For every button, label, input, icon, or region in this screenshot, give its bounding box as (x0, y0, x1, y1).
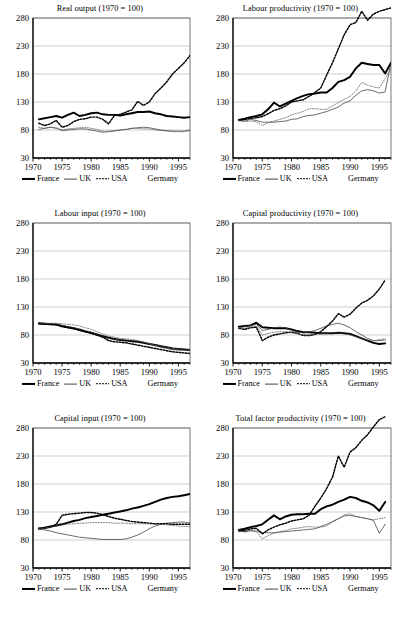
svg-text:180: 180 (216, 274, 229, 284)
legend: France UK USA Germany (0, 379, 200, 388)
line-swatch-usa-icon (297, 177, 310, 181)
svg-text:1985: 1985 (312, 162, 329, 172)
svg-text:130: 130 (216, 97, 229, 107)
legend-label-germany: Germany (348, 174, 378, 183)
svg-text:130: 130 (16, 97, 29, 107)
svg-text:1990: 1990 (341, 367, 358, 377)
svg-text:230: 230 (216, 41, 229, 51)
line-swatch-uk-icon (265, 587, 278, 591)
legend-label-germany: Germany (348, 584, 378, 593)
legend-item-france: France (22, 584, 59, 593)
svg-text:1975: 1975 (53, 162, 70, 172)
svg-text:1990: 1990 (141, 572, 158, 582)
line-swatch-usa-icon (96, 587, 109, 591)
svg-text:80: 80 (220, 125, 229, 135)
legend: France UK USA Germany (0, 584, 200, 593)
svg-text:1990: 1990 (341, 162, 358, 172)
svg-text:1990: 1990 (141, 162, 158, 172)
panel-labour-input: Labour input (1970 = 100) 30801301802302… (0, 205, 200, 410)
line-swatch-france-icon (223, 587, 236, 591)
legend-label-usa: USA (111, 174, 127, 183)
line-swatch-germany-icon (133, 177, 146, 181)
svg-text:1970: 1970 (224, 162, 241, 172)
legend-label-germany: Germany (148, 174, 178, 183)
svg-text:1980: 1980 (283, 367, 300, 377)
panel-labour-productivity: Labour productivity (1970 = 100) 3080130… (200, 0, 401, 205)
svg-text:180: 180 (216, 479, 229, 489)
legend-item-uk: UK (64, 379, 91, 388)
legend-label-germany: Germany (348, 379, 378, 388)
svg-text:1975: 1975 (254, 572, 271, 582)
legend-label-france: France (238, 174, 260, 183)
panel-real-output: Real output (1970 = 100) 308013018023028… (0, 0, 200, 205)
svg-text:230: 230 (16, 41, 29, 51)
svg-text:1970: 1970 (224, 367, 241, 377)
legend-item-uk: UK (64, 584, 91, 593)
legend-label-uk: UK (280, 379, 292, 388)
legend-label-france: France (238, 379, 260, 388)
svg-text:1985: 1985 (312, 572, 329, 582)
svg-text:280: 280 (16, 423, 29, 433)
legend-item-usa: USA (297, 584, 328, 593)
legend-item-germany: Germany (133, 584, 178, 593)
svg-text:230: 230 (216, 246, 229, 256)
svg-text:1995: 1995 (371, 367, 388, 377)
svg-text:180: 180 (16, 274, 29, 284)
svg-text:1985: 1985 (112, 572, 129, 582)
legend: France UK USA Germany (200, 379, 401, 388)
svg-text:180: 180 (16, 69, 29, 79)
legend: France UK USA Germany (0, 174, 200, 183)
legend-label-uk: UK (79, 379, 91, 388)
legend: France UK USA Germany (200, 584, 401, 593)
svg-text:1995: 1995 (170, 367, 187, 377)
legend-label-usa: USA (111, 584, 127, 593)
legend-label-uk: UK (79, 174, 91, 183)
line-swatch-uk-icon (265, 382, 278, 386)
legend-item-germany: Germany (133, 174, 178, 183)
line-swatch-uk-icon (64, 382, 77, 386)
svg-text:1995: 1995 (170, 162, 187, 172)
svg-text:230: 230 (16, 246, 29, 256)
svg-text:1985: 1985 (312, 367, 329, 377)
svg-text:130: 130 (16, 507, 29, 517)
legend-item-france: France (223, 174, 260, 183)
line-swatch-germany-icon (333, 587, 346, 591)
svg-text:1980: 1980 (283, 572, 300, 582)
legend-label-germany: Germany (148, 584, 178, 593)
svg-text:1985: 1985 (112, 162, 129, 172)
panel-total-factor-productivity: Total factor productivity (1970 = 100) 3… (200, 410, 401, 617)
legend-label-usa: USA (111, 379, 127, 388)
panel-capital-input: Capital input (1970 = 100) 3080130180230… (0, 410, 200, 617)
svg-text:280: 280 (16, 13, 29, 23)
legend-label-usa: USA (312, 584, 328, 593)
legend-item-uk: UK (265, 174, 292, 183)
legend-label-france: France (238, 584, 260, 593)
line-swatch-france-icon (223, 382, 236, 386)
line-swatch-germany-icon (133, 587, 146, 591)
legend-label-usa: USA (312, 174, 328, 183)
svg-text:130: 130 (216, 507, 229, 517)
line-swatch-usa-icon (297, 587, 310, 591)
legend-label-germany: Germany (148, 379, 178, 388)
svg-text:80: 80 (220, 330, 229, 340)
svg-text:80: 80 (20, 330, 29, 340)
legend-item-uk: UK (265, 379, 292, 388)
svg-text:1975: 1975 (53, 572, 70, 582)
legend-item-france: France (223, 584, 260, 593)
legend: France UK USA Germany (200, 174, 401, 183)
svg-text:1980: 1980 (83, 162, 100, 172)
legend-item-france: France (223, 379, 260, 388)
svg-text:280: 280 (216, 423, 229, 433)
line-swatch-france-icon (223, 177, 236, 181)
legend-item-usa: USA (96, 379, 127, 388)
svg-text:1990: 1990 (141, 367, 158, 377)
legend-item-germany: Germany (333, 379, 378, 388)
svg-text:1970: 1970 (24, 162, 41, 172)
svg-text:1970: 1970 (24, 572, 41, 582)
line-swatch-france-icon (22, 587, 35, 591)
svg-text:1980: 1980 (83, 572, 100, 582)
line-swatch-uk-icon (265, 177, 278, 181)
line-swatch-usa-icon (297, 382, 310, 386)
line-swatch-france-icon (22, 177, 35, 181)
line-swatch-france-icon (22, 382, 35, 386)
